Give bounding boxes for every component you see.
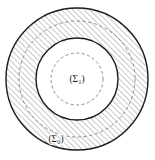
inner-region-label: (Σ1) (69, 74, 84, 85)
figure-container: (Σ1) (Σ0) (0, 0, 155, 160)
inner-label-close: ) (81, 74, 84, 85)
concentric-circles-diagram: (Σ1) (Σ0) (0, 0, 155, 160)
outer-region-label: (Σ0) (48, 134, 63, 145)
outer-label-close: ) (60, 134, 63, 145)
